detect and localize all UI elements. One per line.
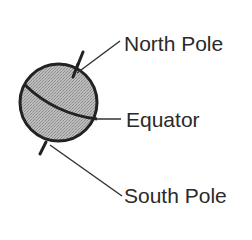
equator-label: Equator <box>126 109 200 130</box>
globe-sphere <box>20 64 97 141</box>
north-leader-line <box>77 41 120 73</box>
south-axis <box>40 142 46 154</box>
south-leader-line <box>50 145 122 196</box>
south-pole-label: South Pole <box>124 185 227 206</box>
north-pole-label: North Pole <box>124 33 223 54</box>
